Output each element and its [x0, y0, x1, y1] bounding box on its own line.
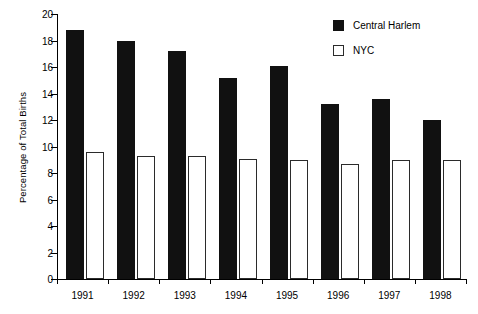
bar-group [108, 14, 159, 279]
x-tick-mark [57, 279, 58, 284]
legend-item-label: NYC [353, 45, 374, 56]
bar-central-harlem [168, 51, 186, 279]
x-tick-label: 1991 [71, 290, 93, 301]
filled-square-icon [333, 20, 344, 31]
y-tick-label: 20 [42, 9, 53, 20]
legend-item: Central Harlem [333, 18, 420, 33]
y-tick-label: 6 [47, 194, 53, 205]
x-tick-label: 1997 [378, 290, 400, 301]
bar-nyc [392, 160, 410, 279]
x-tick-mark [415, 279, 416, 284]
bar-central-harlem [117, 41, 135, 280]
x-tick-label: 1995 [276, 290, 298, 301]
bar-central-harlem [423, 120, 441, 279]
y-tick-label: 10 [42, 141, 53, 152]
y-tick-label: 14 [42, 88, 53, 99]
x-tick-mark [364, 279, 365, 284]
y-tick-label: 2 [47, 247, 53, 258]
y-tick-label: 18 [42, 35, 53, 46]
bar-nyc [86, 152, 104, 279]
legend-item: NYC [333, 43, 420, 58]
bar-nyc [188, 156, 206, 279]
bar-nyc [137, 156, 155, 279]
bar-chart: Percentage of Total Births 0246810121416… [0, 0, 478, 314]
bar-nyc [290, 160, 308, 279]
y-tick-label: 12 [42, 115, 53, 126]
bar-nyc [443, 160, 461, 279]
bar-group [262, 14, 313, 279]
x-tick-mark [262, 279, 263, 284]
y-tick-label: 8 [47, 168, 53, 179]
x-tick-label: 1993 [174, 290, 196, 301]
bar-central-harlem [270, 66, 288, 279]
x-tick-label: 1992 [123, 290, 145, 301]
x-tick-label: 1994 [225, 290, 247, 301]
x-tick-mark [210, 279, 211, 284]
legend-item-label: Central Harlem [353, 20, 420, 31]
bar-nyc [239, 159, 257, 279]
x-tick-label: 1998 [429, 290, 451, 301]
y-tick-label: 0 [47, 274, 53, 285]
bar-central-harlem [372, 99, 390, 279]
bar-central-harlem [219, 78, 237, 279]
bar-group [159, 14, 210, 279]
x-tick-mark [159, 279, 160, 284]
x-tick-mark [466, 279, 467, 284]
hollow-square-icon [333, 45, 344, 56]
bar-group [210, 14, 261, 279]
bar-central-harlem [66, 30, 84, 279]
bar-central-harlem [321, 104, 339, 279]
x-tick-label: 1996 [327, 290, 349, 301]
x-tick-mark [313, 279, 314, 284]
bar-group [57, 14, 108, 279]
bar-group [415, 14, 466, 279]
y-axis-title: Percentage of Total Births [17, 48, 28, 248]
chart-legend: Central HarlemNYC [333, 18, 420, 68]
bar-nyc [341, 164, 359, 279]
y-tick-label: 16 [42, 62, 53, 73]
y-tick-label: 4 [47, 221, 53, 232]
x-tick-mark [108, 279, 109, 284]
